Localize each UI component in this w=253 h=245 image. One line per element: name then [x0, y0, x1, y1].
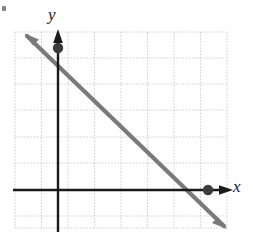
- graph-figure: y x: [0, 0, 253, 245]
- point-x-intercept: [203, 185, 213, 195]
- plotted-line-group: [25, 34, 228, 230]
- y-axis-arrowhead-icon: [53, 29, 63, 43]
- coordinate-plane-plot: [0, 0, 253, 245]
- marked-points-group: [53, 43, 213, 195]
- point-y-intercept: [53, 43, 63, 53]
- x-axis-label: x: [233, 178, 241, 195]
- x-axis-arrowhead-icon: [219, 185, 233, 195]
- y-axis-label: y: [48, 6, 56, 23]
- plotted-line: [27, 36, 224, 226]
